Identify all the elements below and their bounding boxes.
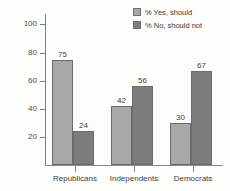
plot-area: 100 80 60 40 20 75 24 <box>45 14 223 166</box>
bar-independents-yes: 42 <box>111 106 132 165</box>
x-axis-label-democrats: Democrats <box>174 174 213 184</box>
x-tick-republicans <box>75 166 76 172</box>
bar-chart: % Yes, should % No, should not 100 80 60… <box>0 0 230 191</box>
bar-value-democrats-yes: 30 <box>176 113 185 123</box>
bar-group-independents: 42 56 <box>111 24 157 165</box>
bar-republicans-yes: 75 <box>52 60 73 165</box>
x-axis-label-republicans: Republicans <box>53 174 97 184</box>
y-tick-80 <box>40 53 46 54</box>
bar-value-independents-no: 56 <box>138 76 147 86</box>
y-tick-label-80: 80 <box>28 49 37 57</box>
y-tick-label-100: 100 <box>24 20 37 28</box>
x-tick-democrats <box>193 166 194 172</box>
bar-democrats-yes: 30 <box>170 123 191 165</box>
y-tick-label-20: 20 <box>28 133 37 141</box>
x-tick-independents <box>134 166 135 172</box>
bar-republicans-no: 24 <box>73 131 94 165</box>
y-axis-line <box>45 14 46 166</box>
y-tick-label-60: 60 <box>28 77 37 85</box>
y-tick-20 <box>40 137 46 138</box>
bar-value-independents-yes: 42 <box>117 96 126 106</box>
bar-group-republicans: 75 24 <box>52 24 98 165</box>
y-tick-40 <box>40 109 46 110</box>
y-tick-label-40: 40 <box>28 105 37 113</box>
y-tick-60 <box>40 81 46 82</box>
y-tick-100 <box>40 24 46 25</box>
bar-group-democrats: 30 67 <box>170 24 216 165</box>
x-axis-label-independents: Independents <box>110 174 159 184</box>
bar-value-republicans-yes: 75 <box>58 50 67 60</box>
bar-independents-no: 56 <box>132 86 153 165</box>
bar-value-republicans-no: 24 <box>79 121 88 131</box>
bar-democrats-no: 67 <box>191 71 212 165</box>
bar-value-democrats-no: 67 <box>197 61 206 71</box>
